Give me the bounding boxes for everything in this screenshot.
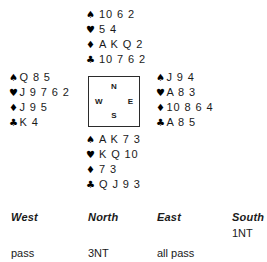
spade-icon: ♠ [86,7,95,22]
hand-south-clubs-cards: Q J 9 3 [99,177,141,192]
auction-table: West North East South 1NT pass 3NT all p… [0,205,267,262]
heart-icon: ♥ [156,85,165,100]
hand-south: ♠ A K 7 3 ♥ K Q 10 ♦ 7 3 ♣ Q J 9 3 [86,132,141,192]
hand-west-clubs: ♣ K 4 [9,115,70,130]
compass-label-west: W [95,98,103,106]
spade-icon: ♠ [156,70,165,85]
hand-west-diamonds: ♦ J 9 5 [9,100,70,115]
hand-south-hearts-cards: K Q 10 [99,147,139,162]
hand-north-hearts: ♥ 5 4 [86,22,146,37]
auction-header-south: South [232,209,264,225]
club-icon: ♣ [86,52,95,67]
hand-north-clubs-cards: 10 7 6 2 [99,52,146,67]
hand-south-diamonds-cards: 7 3 [99,162,117,177]
auction-row: 1NT [0,225,267,241]
auction-header-east: East [157,209,181,225]
hand-west-diamonds-cards: J 9 5 [19,100,47,115]
heart-icon: ♥ [9,85,18,100]
auction-row: pass 3NT all pass [0,245,267,261]
spade-icon: ♠ [9,70,18,85]
hand-east-diamonds: ♦ 10 8 6 4 [156,100,213,115]
diamond-icon: ♦ [86,162,95,177]
diamond-icon: ♦ [156,100,165,115]
hand-east: ♠ J 9 4 ♥ A 8 3 ♦ 10 8 6 4 ♣ A 8 5 [156,70,213,130]
hand-east-hearts: ♥ A 8 3 [156,85,213,100]
hand-north-diamonds: ♦ A K Q 2 [86,37,146,52]
club-icon: ♣ [86,177,95,192]
hand-south-diamonds: ♦ 7 3 [86,162,141,177]
diamond-icon: ♦ [86,37,95,52]
club-icon: ♣ [9,115,18,130]
auction-header-row: West North East South [0,209,267,225]
spade-icon: ♠ [86,132,95,147]
heart-icon: ♥ [86,22,95,37]
hand-north-spades-cards: 10 6 2 [99,7,135,22]
hand-south-clubs: ♣ Q J 9 3 [86,177,141,192]
auction-bid-west-2: pass [11,245,34,261]
hand-west-hearts: ♥ J 9 7 6 2 [9,85,70,100]
auction-header-north: North [88,209,118,225]
hand-west-clubs-cards: K 4 [19,115,38,130]
heart-icon: ♥ [86,147,95,162]
auction-header-west: West [11,209,38,225]
hand-east-spades: ♠ J 9 4 [156,70,213,85]
hand-east-hearts-cards: A 8 3 [166,85,196,100]
compass-label-east: E [128,98,133,106]
hand-north: ♠ 10 6 2 ♥ 5 4 ♦ A K Q 2 ♣ 10 7 6 2 [86,7,146,67]
club-icon: ♣ [156,115,165,130]
hand-south-spades-cards: A K 7 3 [99,132,141,147]
hand-east-diamonds-cards: 10 8 6 4 [166,100,213,115]
hand-east-clubs-cards: A 8 5 [166,115,196,130]
hand-north-clubs: ♣ 10 7 6 2 [86,52,146,67]
auction-bid-south-1: 1NT [232,225,253,241]
hand-south-hearts: ♥ K Q 10 [86,147,141,162]
hand-east-spades-cards: J 9 4 [166,70,194,85]
hand-west-spades: ♠ Q 8 5 [9,70,70,85]
hand-west: ♠ Q 8 5 ♥ J 9 7 6 2 ♦ J 9 5 ♣ K 4 [9,70,70,130]
compass-label-north: N [111,83,117,91]
hand-north-hearts-cards: 5 4 [99,22,117,37]
hand-west-hearts-cards: J 9 7 6 2 [19,85,69,100]
auction-bid-east-2: all pass [157,245,194,261]
compass-label-south: S [111,112,116,120]
auction-bid-north-2: 3NT [88,245,109,261]
hand-south-spades: ♠ A K 7 3 [86,132,141,147]
hand-east-clubs: ♣ A 8 5 [156,115,213,130]
hand-north-diamonds-cards: A K Q 2 [99,37,143,52]
compass-box: N W E S [88,76,140,127]
hand-north-spades: ♠ 10 6 2 [86,7,146,22]
diamond-icon: ♦ [9,100,18,115]
hand-west-spades-cards: Q 8 5 [19,70,50,85]
bridge-deal-diagram: ♠ 10 6 2 ♥ 5 4 ♦ A K Q 2 ♣ 10 7 6 2 ♠ Q … [0,0,267,198]
